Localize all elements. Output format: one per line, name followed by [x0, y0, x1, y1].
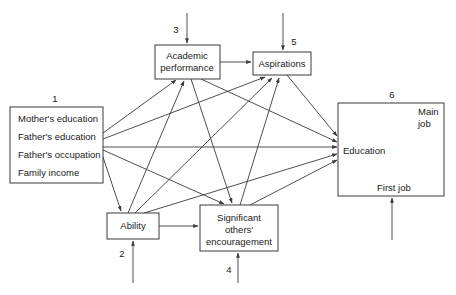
node-academic-performance: 3 Academic performance: [155, 24, 220, 79]
node-number: 1: [52, 93, 57, 104]
edge-background-ability: [103, 157, 121, 211]
node-number: 3: [173, 24, 178, 35]
node-aspirations: 5 Aspirations: [253, 36, 311, 75]
node-label-line: Mother's education: [18, 113, 98, 124]
node-number: 2: [119, 248, 124, 259]
main-job-label: Main: [418, 106, 439, 117]
node-number: 4: [226, 264, 231, 275]
node-number: 5: [291, 36, 296, 47]
edge-ability-aspirations: [135, 78, 272, 213]
main-job-label: job: [417, 118, 431, 129]
node-label-line: Father's occupation: [18, 149, 101, 160]
node-attainment: 6 Education Main job First job: [338, 89, 444, 196]
node-background: 1 Mother's education Father's education …: [10, 93, 103, 183]
node-label-line: Family income: [18, 167, 79, 178]
edge-encouragement-attainment: [250, 160, 337, 205]
edge-aspirations-attainment: [287, 75, 337, 136]
node-label-line: Ability: [120, 220, 146, 231]
node-label-line: Significant: [217, 212, 261, 223]
node-label-line: performance: [160, 62, 213, 73]
edge-background-encouragement: [103, 150, 224, 204]
node-label-line: encouragement: [206, 236, 272, 247]
path-diagram: 1 Mother's education Father's education …: [0, 0, 456, 295]
node-label-line: others': [225, 224, 253, 235]
first-job-label: First job: [377, 182, 411, 193]
node-label-line: Aspirations: [259, 58, 306, 69]
node-label-line: Father's education: [18, 131, 96, 142]
node-encouragement: Significant others' encouragement 4: [200, 205, 278, 275]
node-number: 6: [389, 89, 394, 100]
edge-background-aspirations: [103, 77, 265, 139]
node-label-line: Academic: [166, 50, 208, 61]
edge-encouragement-aspirations: [240, 78, 279, 205]
education-label: Education: [343, 145, 385, 156]
